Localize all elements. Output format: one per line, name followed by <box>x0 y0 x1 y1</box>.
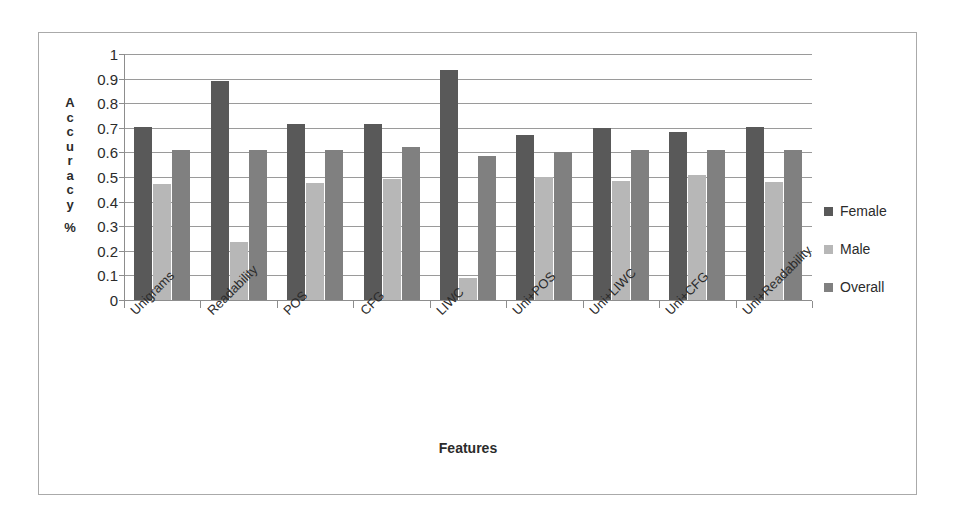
bar-group <box>516 54 572 300</box>
legend-label: Male <box>840 242 870 257</box>
bar-group <box>669 54 725 300</box>
y-axis-tick-label: 1 <box>82 47 118 62</box>
y-axis-tick-labels: 00.10.20.30.40.50.60.70.80.91 <box>82 44 118 310</box>
legend-label: Overall <box>840 280 884 295</box>
y-axis-title-percent: % <box>58 221 82 236</box>
y-axis-tick-label: 0.5 <box>82 170 118 185</box>
y-axis-tick-label: 0.3 <box>82 219 118 234</box>
y-axis-tick-label: 0.7 <box>82 121 118 136</box>
y-axis-title-letter: u <box>58 140 82 155</box>
y-axis-tick-mark <box>119 128 124 129</box>
bar <box>402 147 420 300</box>
legend-item[interactable]: Overall <box>824 268 934 306</box>
bar <box>211 81 229 300</box>
bar <box>287 124 305 300</box>
bar <box>440 70 458 300</box>
legend-swatch-icon <box>824 245 833 254</box>
y-axis-title-letter: c <box>58 111 82 126</box>
bar <box>478 156 496 300</box>
y-axis-tick-mark <box>119 177 124 178</box>
y-axis-tick-label: 0.2 <box>82 244 118 259</box>
y-axis-tick-label: 0.8 <box>82 96 118 111</box>
y-axis-title: Accuracy% <box>58 96 82 236</box>
bar-group <box>364 54 420 300</box>
y-axis-title-letter: r <box>58 154 82 169</box>
y-axis-tick-mark <box>119 103 124 104</box>
bar <box>325 150 343 300</box>
bar <box>383 179 401 300</box>
y-axis-tick-mark <box>119 251 124 252</box>
y-axis-tick-mark <box>119 79 124 80</box>
x-axis-tick-labels: UnigramsReadabilityPOSCFGLIWCUni+POSUni+… <box>124 300 824 430</box>
legend-item[interactable]: Male <box>824 230 934 268</box>
bar <box>516 135 534 300</box>
y-axis-tick-mark <box>119 152 124 153</box>
bar-group <box>287 54 343 300</box>
chart-figure: Accuracy% 00.10.20.30.40.50.60.70.80.91 … <box>0 0 954 524</box>
legend-item[interactable]: Female <box>824 192 934 230</box>
y-axis-tick-mark <box>119 275 124 276</box>
bar-group <box>211 54 267 300</box>
y-axis-title-letter: A <box>58 96 82 111</box>
bar-group <box>440 54 496 300</box>
y-axis-title-letter: c <box>58 183 82 198</box>
legend-label: Female <box>840 204 887 219</box>
y-axis-line <box>124 54 125 300</box>
bar <box>306 183 324 300</box>
bar <box>746 127 764 300</box>
y-axis-title-letter: a <box>58 169 82 184</box>
y-axis-tick-mark <box>119 226 124 227</box>
plot-area <box>124 54 812 300</box>
y-axis-tick-mark <box>119 54 124 55</box>
y-axis-tick-label: 0.1 <box>82 268 118 283</box>
bar <box>364 124 382 300</box>
y-axis-title-letter: c <box>58 125 82 140</box>
bar <box>134 127 152 300</box>
legend-swatch-icon <box>824 207 833 216</box>
y-axis-tick-mark <box>119 202 124 203</box>
y-axis-tick-label: 0.6 <box>82 145 118 160</box>
y-axis-title-letter: y <box>58 198 82 213</box>
x-axis-title: Features <box>124 440 812 456</box>
bar-group <box>593 54 649 300</box>
bar <box>669 132 687 301</box>
chart-legend: FemaleMaleOverall <box>824 192 934 306</box>
y-axis-tick-label: 0.9 <box>82 72 118 87</box>
y-axis-tick-label: 0.4 <box>82 195 118 210</box>
bar <box>593 128 611 300</box>
bar-group <box>134 54 190 300</box>
legend-swatch-icon <box>824 283 833 292</box>
y-axis-tick-label: 0 <box>82 293 118 308</box>
